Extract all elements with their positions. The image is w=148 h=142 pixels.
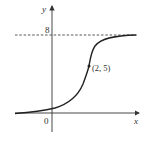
logistic-curve xyxy=(15,35,136,114)
inflection-point-marker xyxy=(88,65,91,68)
x-axis-label: x xyxy=(133,116,138,126)
logistic-curve-diagram: y 8 (2, 5) 0 x xyxy=(0,0,148,142)
y-axis-label: y xyxy=(41,4,46,14)
asymptote-label: 8 xyxy=(45,25,50,35)
origin-label: 0 xyxy=(44,116,49,126)
point-label: (2, 5) xyxy=(92,63,111,73)
